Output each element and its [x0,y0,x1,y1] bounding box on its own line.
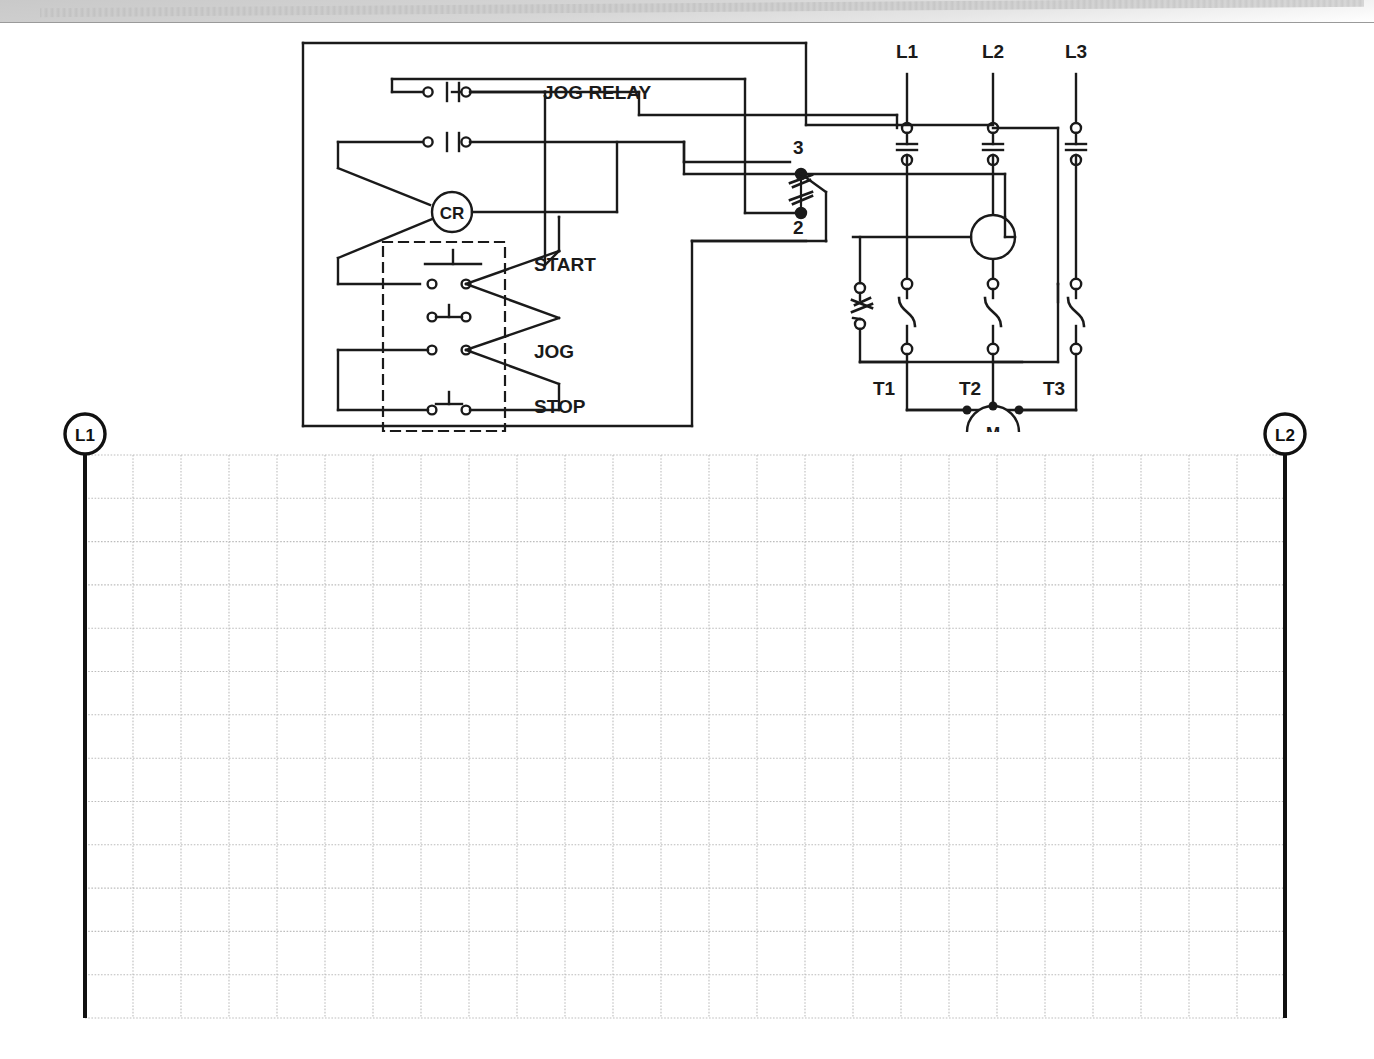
selector-terminal-2-label: 2 [793,217,804,238]
jog-relay-contact-lower [423,133,470,151]
selector-switch-wires [684,79,1005,241]
jog-pushbutton [428,346,471,355]
terminal-T1-label: T1 [873,378,896,399]
rail-L2-label: L2 [1275,426,1295,445]
jog-control-wiring-diagram-svg: JOG RELAY START JOG STOP 3 2 L1 L2 L3 T1… [0,22,1374,432]
jog-relay-contact-upper [423,83,470,101]
selector-terminal-3-label: 3 [793,137,804,158]
rail-L1-label: L1 [75,426,95,445]
worksheet-grid [85,455,1285,1018]
L2-top-feed [897,125,1058,302]
power-line-L2-label: L2 [982,41,1004,62]
power-line-L3 [1008,74,1086,410]
worksheet-svg: L1 L2 [0,400,1374,1059]
terminal-T3-label: T3 [1043,378,1065,399]
power-line-L1-label: L1 [896,41,919,62]
jog-relay-lower-wire-right [470,142,790,162]
heater-return-bus [860,284,1058,362]
blank-ladder-worksheet: L1 L2 [0,400,1374,1059]
starter-coil [853,215,1015,259]
power-line-L3-label: L3 [1065,41,1087,62]
jog-relay-upper-wire-right [470,92,897,128]
rail-L2: L2 [1265,414,1305,1018]
cr-coil-label: CR [440,204,465,223]
jog-relay-label: JOG RELAY [543,82,651,103]
start-label: START [534,254,596,275]
jog-relay-lower-rung [338,142,430,205]
scan-page-edge [0,0,1374,23]
rail-L1: L1 [65,414,105,1018]
jog-label: JOG [534,341,574,362]
control-diagram: JOG RELAY START JOG STOP 3 2 L1 L2 L3 T1… [0,22,1374,432]
terminal-T2-label: T2 [959,378,981,399]
station-spare-contact [428,305,471,321]
